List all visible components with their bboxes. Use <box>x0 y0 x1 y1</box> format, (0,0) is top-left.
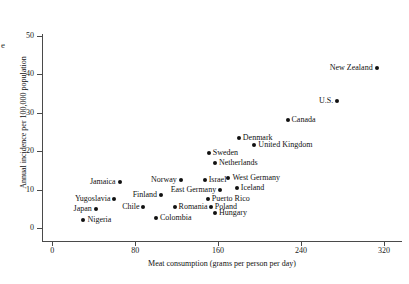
data-point-label: Finland <box>133 191 157 199</box>
y-tick-mark <box>37 36 42 37</box>
data-point-label: United Kingdom <box>258 141 312 149</box>
data-point-label: U.S. <box>319 97 333 105</box>
data-point <box>154 216 158 220</box>
x-axis-label: Meat consumption (grams per person per d… <box>42 259 402 268</box>
data-point-label: Yugoslavia <box>75 195 111 203</box>
y-tick-mark <box>37 74 42 75</box>
data-point <box>252 143 256 147</box>
data-point <box>335 99 339 103</box>
data-point-label: Colombia <box>160 214 192 222</box>
data-point-label: Canada <box>292 116 316 124</box>
y-tick-mark <box>37 151 42 152</box>
data-point <box>207 151 211 155</box>
figure-corner-letter: e <box>1 40 5 50</box>
y-tick-mark <box>37 228 42 229</box>
data-point-label: Japan <box>74 205 92 213</box>
data-point <box>118 180 122 184</box>
data-point-label: Chile <box>122 203 139 211</box>
x-tick-label: 0 <box>37 246 67 255</box>
data-point-label: Jamaica <box>90 178 116 186</box>
data-point-label: New Zealand <box>330 64 373 72</box>
data-point-label: Israel <box>209 176 227 184</box>
data-point-label: Netherlands <box>219 159 258 167</box>
x-tick-label: 320 <box>369 246 399 255</box>
data-point <box>226 176 230 180</box>
y-axis-line <box>42 34 43 242</box>
data-point <box>237 136 241 140</box>
data-point <box>94 207 98 211</box>
scatter-plot-figure: e 01020304050 080160240320 Annual incide… <box>0 0 409 284</box>
data-point <box>206 197 210 201</box>
data-point <box>159 193 163 197</box>
data-point <box>112 197 116 201</box>
data-point <box>141 205 145 209</box>
data-point <box>218 188 222 192</box>
data-point-label: Hungary <box>219 209 247 217</box>
data-point <box>203 178 207 182</box>
data-point-label: East Germany <box>171 186 217 194</box>
data-point <box>213 211 217 215</box>
data-point-label: Puerto Rico <box>212 195 250 203</box>
data-point-label: West Germany <box>232 174 280 182</box>
data-point-label: Iceland <box>241 184 265 192</box>
data-point-label: Nigeria <box>87 216 111 224</box>
data-point <box>213 161 217 165</box>
data-point <box>375 66 379 70</box>
data-point <box>81 218 85 222</box>
y-tick-mark <box>37 190 42 191</box>
data-point <box>235 186 239 190</box>
x-tick-label: 160 <box>203 246 233 255</box>
data-point <box>179 178 183 182</box>
data-point-label: Norway <box>151 176 177 184</box>
x-axis-line <box>42 241 402 242</box>
data-point <box>173 205 177 209</box>
x-tick-label: 80 <box>120 246 150 255</box>
data-point-label: Romania <box>179 203 208 211</box>
y-tick-mark <box>37 113 42 114</box>
data-point <box>286 118 290 122</box>
data-point <box>209 205 213 209</box>
y-tick-label: 50 <box>16 32 34 40</box>
y-tick-label: 0 <box>16 224 34 232</box>
data-point-label: Sweden <box>213 149 238 157</box>
y-axis-label: Annual incidence per 100,000 population <box>19 48 28 198</box>
x-tick-label: 240 <box>286 246 316 255</box>
